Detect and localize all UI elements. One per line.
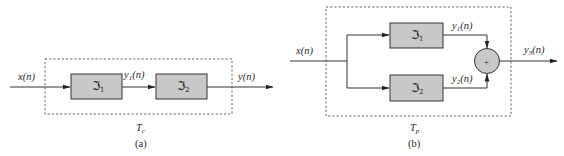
caption-a: (a) xyxy=(135,138,147,150)
plus-icon: + xyxy=(484,57,489,67)
output-label-a: y(n) xyxy=(237,71,255,83)
input-label-a: x(n) xyxy=(17,71,35,83)
intermediate-label-a: y1(n) xyxy=(123,69,145,82)
upper-to-summer-arrow xyxy=(443,35,487,48)
y3-label-b: y3(n) xyxy=(523,44,545,57)
y1-label-b: y1(n) xyxy=(451,20,473,33)
cascade-diagram: x(n) ℑ1 y1(n) ℑ2 y(n) Tc (a) xyxy=(10,59,273,150)
upper-branch-arrow xyxy=(347,35,389,61)
system-label-tc: Tc xyxy=(136,122,146,135)
system-label-tp: Tp xyxy=(410,122,420,135)
y2-label-b: y2(n) xyxy=(451,73,473,86)
caption-b: (b) xyxy=(408,138,421,150)
block-diagrams: x(n) ℑ1 y1(n) ℑ2 y(n) Tc (a) x(n) ℑ1 ℑ2 … xyxy=(0,0,564,156)
input-label-b: x(n) xyxy=(295,45,313,57)
lower-branch-arrow xyxy=(347,61,389,88)
parallel-diagram: x(n) ℑ1 ℑ2 y1(n) y2(n) + y3(n) Tp (b) xyxy=(290,7,557,150)
